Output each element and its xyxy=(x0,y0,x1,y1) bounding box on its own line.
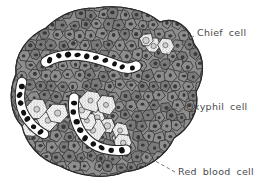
chief-cell xyxy=(193,121,204,131)
chief-cell xyxy=(19,152,29,163)
chief-cell xyxy=(159,1,170,10)
chief-cell xyxy=(156,172,167,184)
label-red-blood-cell: Red blood cell xyxy=(178,166,254,177)
chief-cell xyxy=(46,0,56,8)
chief-cell xyxy=(33,0,45,10)
chief-cell xyxy=(177,11,187,20)
chief-cell xyxy=(195,59,205,70)
chief-cell xyxy=(132,171,144,182)
chief-cell xyxy=(27,29,38,40)
chief-cell xyxy=(11,0,21,8)
chief-cell xyxy=(1,40,13,52)
chief-cell xyxy=(184,143,194,152)
tissue-mass xyxy=(0,0,216,185)
chief-cell xyxy=(30,172,41,183)
chief-cell xyxy=(1,142,10,152)
chief-cell xyxy=(23,162,36,173)
chief-cell xyxy=(0,18,11,29)
chief-cell xyxy=(0,60,12,71)
chief-cell xyxy=(184,119,197,132)
chief-cell xyxy=(191,130,200,140)
chief-cell xyxy=(49,171,62,183)
chief-cell xyxy=(19,10,30,20)
chief-cell xyxy=(0,100,11,111)
chief-cell xyxy=(12,161,24,173)
chief-cell xyxy=(17,173,27,184)
chief-cell xyxy=(46,162,58,173)
chief-cell xyxy=(195,142,206,153)
chief-cell xyxy=(137,0,149,9)
chief-cell xyxy=(12,142,24,154)
chief-cell xyxy=(159,163,172,175)
chief-cell xyxy=(29,11,39,21)
chief-cell xyxy=(195,81,208,94)
chief-cell xyxy=(1,162,11,172)
chief-cell xyxy=(58,0,71,10)
chief-cell xyxy=(201,8,213,19)
chief-cell xyxy=(204,141,217,154)
chief-cell xyxy=(64,173,73,184)
chief-cell xyxy=(39,170,52,183)
chief-cell xyxy=(34,160,47,172)
chief-cell xyxy=(12,18,24,30)
chief-cell xyxy=(1,120,11,130)
chief-cell xyxy=(167,8,179,22)
label-chief-cell: Chief cell xyxy=(197,27,246,38)
histology-figure: Chief cell Oxyphil cell Red blood cell xyxy=(0,0,259,192)
chief-cell xyxy=(7,132,20,142)
chief-cell xyxy=(23,21,35,31)
chief-cell xyxy=(198,131,209,141)
chief-cell xyxy=(138,21,147,31)
chief-cell xyxy=(171,0,185,11)
chief-cell xyxy=(70,0,81,9)
chief-cell xyxy=(167,174,177,183)
chief-cell xyxy=(199,151,211,161)
chief-cell xyxy=(7,153,17,163)
chief-cell xyxy=(177,151,191,164)
chief-cell xyxy=(6,8,19,21)
chief-cell xyxy=(148,0,160,10)
chief-cell xyxy=(11,40,22,51)
chief-cell xyxy=(5,30,16,39)
chief-cell xyxy=(182,0,194,10)
label-oxyphil-cell: Oxyphil cell xyxy=(186,101,248,112)
chief-cell xyxy=(40,7,53,20)
chief-cell xyxy=(6,70,16,82)
chief-cell xyxy=(142,171,152,182)
chief-cell xyxy=(187,151,198,162)
chief-cell xyxy=(194,0,205,8)
chief-cell xyxy=(1,0,11,9)
chief-cell xyxy=(200,91,210,101)
chief-cell xyxy=(23,1,34,12)
chief-cell xyxy=(166,151,178,162)
chief-cell xyxy=(68,82,78,91)
chief-cell xyxy=(7,171,19,182)
chief-cell xyxy=(188,10,200,21)
